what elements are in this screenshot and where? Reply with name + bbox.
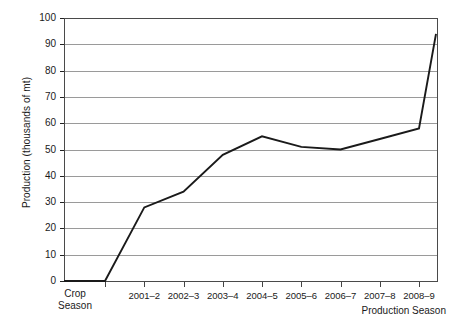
x-axis-title: Production Season [268, 305, 446, 317]
line-chart-figure: Production (thousands of mt) 10090807060… [0, 0, 459, 328]
production-line-series [0, 0, 459, 328]
crop-season-line2: Season [40, 300, 110, 312]
crop-season-caption: Crop Season [40, 288, 110, 312]
crop-season-line1: Crop [40, 288, 110, 300]
